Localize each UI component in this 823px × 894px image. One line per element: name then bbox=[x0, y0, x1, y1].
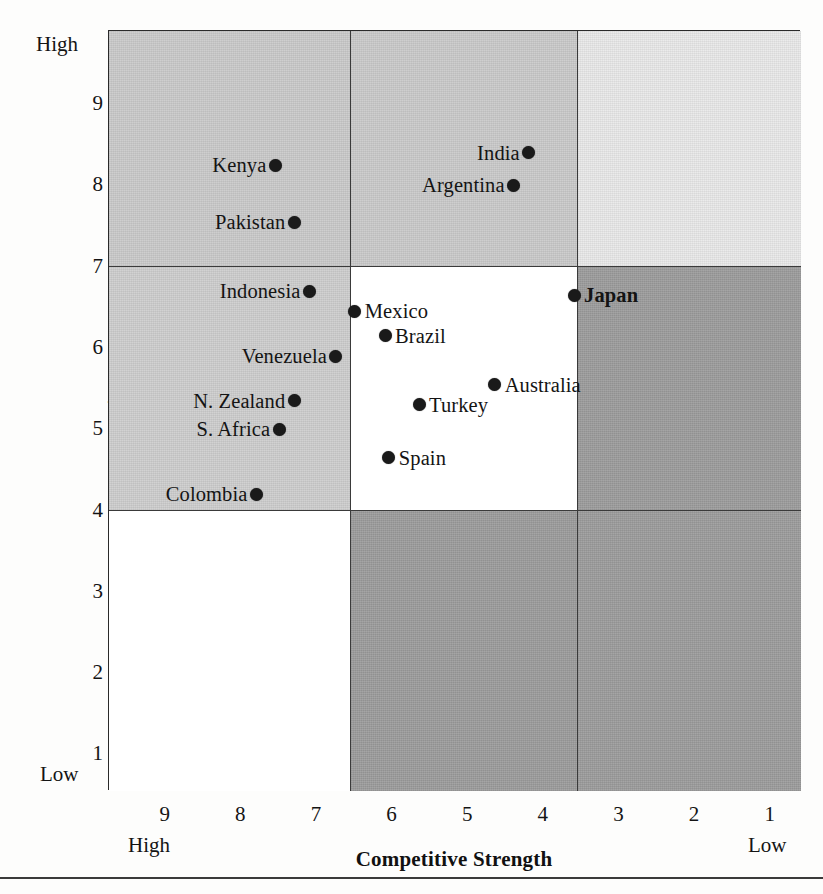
footer-rule bbox=[0, 877, 823, 879]
data-point-argentina bbox=[507, 179, 520, 192]
y-axis-tick-labels: 987654321 bbox=[55, 30, 103, 790]
x-tick-5: 5 bbox=[447, 804, 487, 825]
data-point-pakistan bbox=[288, 216, 301, 229]
y-tick-3: 3 bbox=[63, 580, 103, 601]
country-portfolio-matrix-figure: Country Attractiveness High Low 98765432… bbox=[0, 0, 823, 894]
cell-top-right bbox=[578, 31, 801, 267]
data-point-label-kenya: Kenya bbox=[212, 155, 266, 176]
data-point-label-mexico: Mexico bbox=[365, 301, 428, 322]
x-tick-1: 1 bbox=[750, 804, 790, 825]
cell-bottom-left bbox=[109, 511, 351, 791]
y-tick-8: 8 bbox=[63, 174, 103, 195]
plot-area: KenyaPakistanIndiaArgentinaIndonesiaMexi… bbox=[108, 30, 800, 790]
y-tick-7: 7 bbox=[63, 255, 103, 276]
x-tick-6: 6 bbox=[372, 804, 412, 825]
data-point-label-venezuela: Venezuela bbox=[242, 346, 327, 367]
data-point-label-australia: Australia bbox=[505, 374, 581, 395]
data-point-label-n-zealand: N. Zealand bbox=[193, 391, 285, 412]
data-point-colombia bbox=[250, 488, 263, 501]
x-tick-4: 4 bbox=[523, 804, 563, 825]
data-point-kenya bbox=[269, 159, 282, 172]
data-point-label-pakistan: Pakistan bbox=[215, 212, 285, 233]
y-tick-2: 2 bbox=[63, 662, 103, 683]
x-axis-tick-labels: 987654321 bbox=[108, 804, 800, 830]
x-tick-9: 9 bbox=[145, 804, 185, 825]
y-tick-5: 5 bbox=[63, 418, 103, 439]
data-point-label-spain: Spain bbox=[399, 447, 446, 468]
y-tick-9: 9 bbox=[63, 93, 103, 114]
data-point-label-india: India bbox=[477, 143, 520, 164]
cell-bottom-center bbox=[351, 511, 578, 791]
data-point-label-colombia: Colombia bbox=[166, 484, 248, 505]
x-tick-7: 7 bbox=[296, 804, 336, 825]
x-tick-8: 8 bbox=[220, 804, 260, 825]
data-point-japan bbox=[568, 289, 581, 302]
data-point-indonesia bbox=[303, 285, 316, 298]
y-tick-6: 6 bbox=[63, 337, 103, 358]
x-tick-3: 3 bbox=[598, 804, 638, 825]
y-tick-1: 1 bbox=[63, 743, 103, 764]
y-tick-4: 4 bbox=[63, 499, 103, 520]
data-point-label-indonesia: Indonesia bbox=[220, 281, 301, 302]
data-point-label-brazil: Brazil bbox=[395, 326, 446, 347]
data-point-label-turkey: Turkey bbox=[429, 395, 488, 416]
data-point-venezuela bbox=[329, 350, 342, 363]
cell-bottom-right bbox=[578, 511, 801, 791]
data-point-label-s-africa: S. Africa bbox=[196, 419, 270, 440]
x-tick-2: 2 bbox=[674, 804, 714, 825]
cell-top-center bbox=[351, 31, 578, 267]
data-point-s-africa bbox=[273, 423, 286, 436]
x-axis-title: Competitive Strength bbox=[108, 847, 800, 872]
data-point-brazil bbox=[379, 329, 392, 342]
data-point-label-argentina: Argentina bbox=[422, 175, 505, 196]
data-point-label-japan: Japan bbox=[584, 285, 638, 306]
data-point-turkey bbox=[413, 398, 426, 411]
